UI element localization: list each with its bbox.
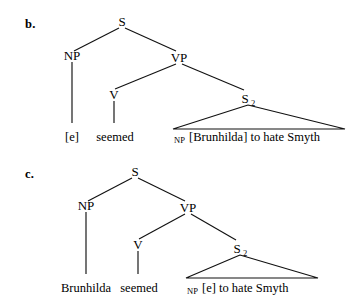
tree-c-canvas: S NP VP V S 2 Brunhilda seemed NP [e] to… [0, 150, 349, 301]
branch-vp-to-v [115, 64, 176, 89]
node-s2-subscript: 2 [243, 248, 247, 258]
terminal-v: seemed [120, 281, 158, 295]
branch-vp-to-v [139, 214, 185, 239]
terminal-np: Brunhilda [61, 281, 111, 295]
tree-diagram-b: b. S NP VP V S 2 [e] seemed [0, 0, 349, 150]
branch-s-to-vp [138, 178, 185, 201]
node-s2: S [233, 241, 240, 256]
node-vp: VP [180, 200, 197, 215]
triangle-category-np: NP [187, 286, 198, 296]
branch-s-to-np [88, 178, 132, 201]
branch-vp-to-s2 [182, 64, 244, 90]
node-np: NP [78, 198, 95, 213]
branch-vp-to-s2 [191, 214, 236, 240]
node-v: V [109, 87, 119, 102]
node-s2: S [241, 91, 248, 106]
triangle-s2 [173, 105, 345, 129]
branch-s-to-vp [125, 28, 176, 51]
tree-diagram-c: c. S NP VP V S 2 Brunhilda seem [0, 150, 349, 301]
node-np: NP [64, 48, 81, 63]
node-v: V [133, 237, 143, 252]
tree-b-canvas: S NP VP V S 2 [e] seemed NP [Brunhilda] … [0, 0, 349, 150]
terminal-v: seemed [96, 130, 134, 144]
triangle-terminal-text: [e] to hate Smyth [202, 281, 289, 295]
terminal-np: [e] [65, 130, 79, 144]
triangle-terminal-text: [Brunhilda] to hate Smyth [189, 130, 321, 144]
triangle-s2 [186, 255, 318, 278]
syntax-tree-figure: b. S NP VP V S 2 [e] seemed [0, 0, 349, 301]
node-s2-subscript: 2 [251, 98, 255, 108]
node-s: S [131, 164, 138, 179]
node-s: S [118, 14, 125, 29]
branch-s-to-np [74, 28, 119, 51]
triangle-category-np: NP [174, 135, 185, 145]
node-vp: VP [171, 50, 188, 65]
